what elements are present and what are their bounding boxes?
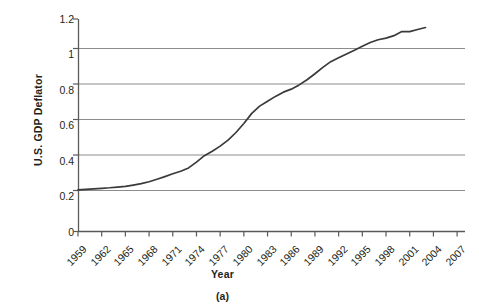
panel-caption: (a): [0, 290, 445, 302]
figure-panel-a: U.S. GDP Deflator 1.2 1 0.8 0.6 0.4 0.2 …: [0, 0, 479, 308]
x-axis-title: Year: [0, 268, 445, 280]
x-axis-tick-labels: 1959196219651968197119741977198019831986…: [0, 0, 479, 308]
